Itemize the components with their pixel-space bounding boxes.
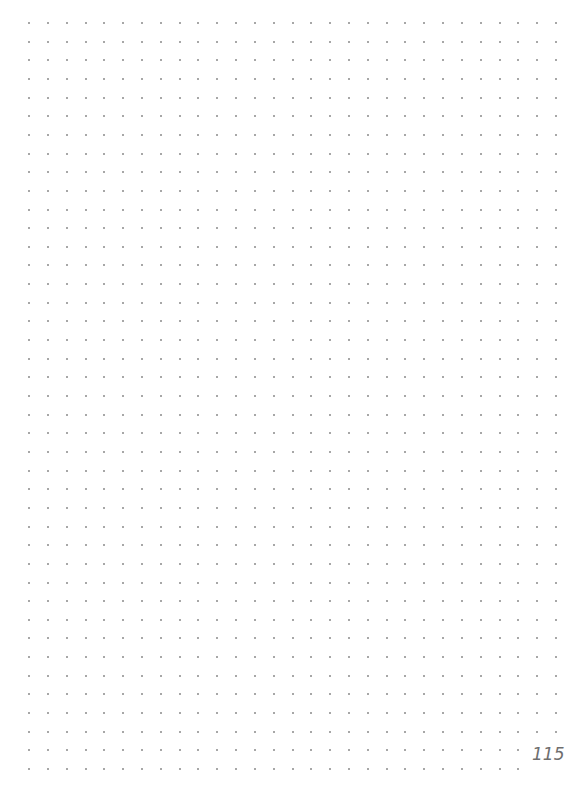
grid-dot <box>235 97 237 99</box>
grid-dot <box>160 246 162 248</box>
grid-dot <box>216 619 218 621</box>
grid-dot <box>47 41 49 43</box>
grid-dot <box>517 227 519 229</box>
grid-dot <box>348 376 350 378</box>
grid-dot <box>28 376 30 378</box>
grid-dot <box>141 320 143 322</box>
grid-dot <box>160 451 162 453</box>
grid-dot <box>517 22 519 24</box>
grid-dot <box>273 637 275 639</box>
grid-dot <box>404 302 406 304</box>
grid-dot <box>122 78 124 80</box>
grid-dot <box>348 507 350 509</box>
grid-dot <box>254 637 256 639</box>
grid-dot <box>28 563 30 565</box>
grid-dot <box>28 395 30 397</box>
grid-dot <box>536 209 538 211</box>
grid-dot <box>461 320 463 322</box>
grid-dot <box>254 712 256 714</box>
grid-dot <box>386 507 388 509</box>
grid-dot <box>499 470 501 472</box>
grid-dot <box>197 488 199 490</box>
grid-dot <box>423 451 425 453</box>
grid-dot <box>28 59 30 61</box>
grid-dot <box>442 246 444 248</box>
grid-dot <box>329 78 331 80</box>
grid-dot <box>517 768 519 770</box>
grid-dot <box>179 432 181 434</box>
grid-dot <box>536 731 538 733</box>
grid-dot <box>367 358 369 360</box>
grid-dot <box>216 153 218 155</box>
grid-dot <box>47 339 49 341</box>
grid-dot <box>536 470 538 472</box>
grid-dot <box>442 134 444 136</box>
grid-dot <box>254 414 256 416</box>
grid-dot <box>235 22 237 24</box>
grid-dot <box>517 712 519 714</box>
grid-dot <box>329 59 331 61</box>
grid-dot <box>254 134 256 136</box>
grid-dot <box>235 339 237 341</box>
grid-dot <box>273 41 275 43</box>
grid-dot <box>386 619 388 621</box>
grid-dot <box>141 22 143 24</box>
grid-dot <box>292 675 294 677</box>
grid-dot <box>216 414 218 416</box>
grid-dot <box>367 749 369 751</box>
grid-dot <box>499 97 501 99</box>
grid-dot <box>310 544 312 546</box>
grid-dot <box>216 302 218 304</box>
grid-dot <box>442 115 444 117</box>
grid-dot <box>160 470 162 472</box>
grid-dot <box>292 414 294 416</box>
grid-dot <box>160 675 162 677</box>
grid-dot <box>273 358 275 360</box>
grid-dot <box>555 190 557 192</box>
grid-dot <box>66 134 68 136</box>
grid-dot <box>404 656 406 658</box>
grid-dot <box>273 22 275 24</box>
grid-dot <box>273 563 275 565</box>
grid-dot <box>310 264 312 266</box>
grid-dot <box>555 339 557 341</box>
grid-dot <box>442 22 444 24</box>
grid-dot <box>122 246 124 248</box>
grid-dot <box>292 59 294 61</box>
grid-dot <box>442 283 444 285</box>
grid-dot <box>499 507 501 509</box>
grid-dot <box>179 171 181 173</box>
grid-dot <box>235 115 237 117</box>
grid-dot <box>348 749 350 751</box>
grid-dot <box>423 78 425 80</box>
grid-dot <box>367 656 369 658</box>
grid-dot <box>404 227 406 229</box>
grid-dot <box>216 376 218 378</box>
grid-dot <box>47 264 49 266</box>
grid-dot <box>28 637 30 639</box>
grid-dot <box>386 339 388 341</box>
grid-dot <box>536 619 538 621</box>
grid-dot <box>47 507 49 509</box>
grid-dot <box>122 376 124 378</box>
grid-dot <box>423 600 425 602</box>
grid-dot <box>536 693 538 695</box>
grid-dot <box>235 59 237 61</box>
grid-dot <box>386 600 388 602</box>
grid-dot <box>499 675 501 677</box>
grid-dot <box>197 600 199 602</box>
grid-dot <box>517 171 519 173</box>
grid-dot <box>85 264 87 266</box>
grid-dot <box>273 264 275 266</box>
grid-dot <box>85 283 87 285</box>
grid-dot <box>179 395 181 397</box>
grid-dot <box>348 320 350 322</box>
grid-dot <box>367 22 369 24</box>
grid-dot <box>292 358 294 360</box>
grid-dot <box>235 749 237 751</box>
grid-dot <box>292 78 294 80</box>
grid-dot <box>122 749 124 751</box>
grid-dot <box>197 712 199 714</box>
grid-dot <box>85 115 87 117</box>
grid-dot <box>235 171 237 173</box>
